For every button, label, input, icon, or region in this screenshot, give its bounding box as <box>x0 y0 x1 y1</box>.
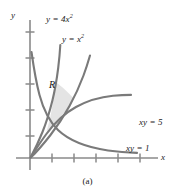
curve-label-y-x2-exponent: 2 <box>81 33 84 39</box>
figure-caption: (a) <box>0 176 175 186</box>
curve-label-y-4x2-text: y = 4x <box>46 14 70 24</box>
x-axis-label: x <box>161 152 165 162</box>
y-axis-label: y <box>11 10 15 20</box>
curve-label-xy-1: xy = 1 <box>126 143 150 153</box>
curve-label-y-x2: y = x2 <box>62 34 84 44</box>
graph-plot <box>0 0 175 196</box>
curve-label-y-4x2: y = 4x2 <box>46 14 73 24</box>
curve-label-y-4x2-exponent: 2 <box>70 13 73 19</box>
curve-label-y-x2-text: y = x <box>62 34 81 44</box>
curve-xy-1 <box>31 95 131 157</box>
figure-container: R y = 4x2 y = x2 xy = 5 xy = 1 y x (a) <box>0 0 175 196</box>
region-label-R: R <box>49 79 55 90</box>
curve-label-xy-5: xy = 5 <box>139 117 163 127</box>
